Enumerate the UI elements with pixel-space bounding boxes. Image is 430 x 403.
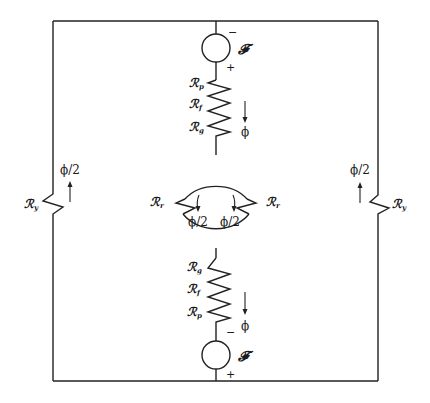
rotor-loop: ℛr ℛr ϕ/2 ϕ/2 — [150, 186, 281, 258]
left-yoke-flux-label: ϕ/2 — [60, 163, 80, 177]
left-yoke-flux-arrow-icon — [68, 181, 73, 202]
lower-branch: ℛg ℛf ℛp ϕ — [187, 258, 249, 335]
upper-flux-arrow-icon — [243, 101, 248, 123]
top-source-minus: − — [228, 26, 237, 39]
right-yoke-flux-label: ϕ/2 — [350, 163, 370, 177]
left-yoke-wire — [43, 21, 63, 381]
lower-label-rp: ℛp — [187, 305, 202, 320]
upper-resistor-zigzag — [208, 80, 230, 155]
source-circle-icon — [202, 341, 230, 369]
rotor-left-zigzag — [176, 199, 195, 214]
rotor-right-zigzag — [237, 199, 256, 214]
rotor-left-flux-label: ϕ/2 — [188, 215, 208, 229]
lower-flux-arrow-icon — [243, 292, 248, 315]
right-yoke-label: ℛy — [392, 197, 407, 212]
lower-label-rf: ℛf — [187, 282, 202, 297]
magnetic-equivalent-circuit: − + 𝓕 ℛp ℛf ℛg ϕ ℛr ℛr — [0, 0, 430, 403]
top-source-label: 𝓕 — [237, 41, 254, 57]
bottom-source-plus: + — [226, 368, 235, 381]
rotor-right-flux-arrow-icon — [232, 195, 237, 212]
rotor-upper-arc — [185, 186, 247, 199]
left-yoke: ℛy ϕ/2 — [24, 163, 80, 212]
lower-resistor-zigzag — [208, 258, 230, 335]
upper-label-rp: ℛp — [189, 76, 204, 91]
rotor-right-label: ℛr — [266, 195, 281, 210]
bottom-mmf-source: − + 𝓕 — [202, 326, 254, 381]
lower-label-rg: ℛg — [187, 260, 202, 275]
left-yoke-label: ℛy — [24, 197, 39, 212]
lower-flux-label: ϕ — [241, 319, 249, 333]
rotor-left-label: ℛr — [150, 195, 165, 210]
right-yoke-flux-arrow-icon — [358, 182, 363, 203]
rotor-right-flux-label: ϕ/2 — [220, 215, 240, 229]
upper-label-rf: ℛf — [189, 97, 204, 112]
upper-label-rg: ℛg — [189, 120, 204, 135]
top-source-plus: + — [226, 61, 235, 74]
bottom-source-minus: − — [226, 326, 235, 339]
source-circle-icon — [202, 34, 230, 62]
right-yoke-wire — [370, 21, 389, 381]
upper-flux-label: ϕ — [241, 125, 249, 139]
top-mmf-source: − + 𝓕 — [202, 21, 254, 80]
bottom-source-label: 𝓕 — [237, 348, 254, 364]
rotor-left-flux-arrow-icon — [196, 195, 201, 212]
upper-branch: ℛp ℛf ℛg ϕ — [189, 76, 249, 155]
